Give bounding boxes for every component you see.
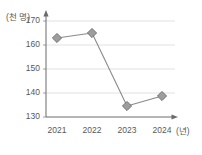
x-tick-label-2024: 2024	[145, 126, 179, 135]
y-tick-label-160: 160	[16, 40, 40, 49]
y-tick-label-150: 150	[16, 64, 40, 73]
x-axis-line	[46, 114, 178, 119]
y-tick-label-130: 130	[16, 112, 40, 121]
x-tick-label-2022: 2022	[75, 126, 109, 135]
gridlines	[46, 21, 175, 93]
x-tick-label-2021: 2021	[40, 126, 74, 135]
y-tick-label-140: 140	[16, 88, 40, 97]
x-tick-label-2023: 2023	[110, 126, 144, 135]
data-point-2022	[87, 28, 96, 37]
data-point-2023	[122, 101, 131, 110]
data-line-series-1	[57, 33, 162, 106]
line-chart: ··· ··· ·· ··· ···· ·· (천 명) (년)	[0, 0, 202, 155]
y-tick-label-170: 170	[16, 16, 40, 25]
data-point-2021	[52, 33, 61, 42]
y-axis-line	[43, 10, 48, 117]
